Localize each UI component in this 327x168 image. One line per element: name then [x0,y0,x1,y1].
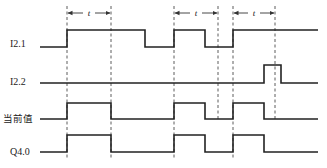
timing-diagram: ttt I2.1I2.2当前值Q4.0 [0,0,327,168]
waveform-q4-0 [40,135,318,152]
time-interval-annotations: ttt [68,8,274,18]
signal-label: Q4.0 [10,146,30,157]
signal-label: I2.2 [10,76,26,87]
interval-label: t [253,8,256,18]
interval-label: t [88,8,91,18]
interval-label: t [195,8,198,18]
waveform-i2-1 [40,30,318,47]
signal-label: 当前值 [3,113,33,124]
waveform-current-value [40,103,318,119]
signal-label: I2.1 [10,38,26,49]
waveforms [40,30,318,152]
signal-labels: I2.1I2.2当前值Q4.0 [3,38,33,157]
waveform-i2-2 [40,65,318,83]
